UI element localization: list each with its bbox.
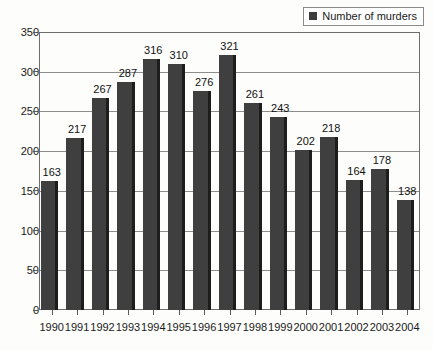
bar-slot: 202 [293,32,318,310]
bar-value-label: 138 [395,186,420,197]
bar-value-label: 178 [369,155,394,166]
bar-value-label: 163 [39,167,64,178]
x-axis-tick-label: 1992 [90,322,114,333]
bar-slot: 321 [217,32,242,310]
x-axis-tick-mark [407,310,408,315]
x-axis-tick-label: 1997 [217,322,241,333]
bar-value-label: 287 [115,68,140,79]
y-axis-tick-mark [33,270,38,271]
bar[interactable] [320,137,337,310]
bar[interactable] [371,169,388,310]
x-axis-tick-mark [128,310,129,315]
x-axis-tick-mark [230,310,231,315]
x-axis-tick-mark [357,310,358,315]
bar[interactable] [270,117,287,310]
x-axis-tick-mark [77,310,78,315]
legend-entry-label: Number of murders [322,10,417,22]
x-axis-tick-label: 2002 [344,322,368,333]
bar-slot: 261 [242,32,267,310]
bar-value-label: 164 [344,166,369,177]
legend-swatch-icon [309,12,317,20]
bar[interactable] [193,91,210,310]
bar[interactable] [66,138,83,310]
x-axis-tick-mark [204,310,205,315]
bar[interactable] [295,150,312,310]
bar[interactable] [143,59,160,310]
x-axis-tick-mark [306,310,307,315]
x-axis-tick-label: 2000 [293,322,317,333]
bar[interactable] [346,180,363,310]
x-axis-tick-mark [255,310,256,315]
x-axis-tick-label: 1998 [243,322,267,333]
bar[interactable] [41,181,58,310]
y-axis-tick-mark [33,32,38,33]
bar-slot: 218 [318,32,343,310]
x-axis-tick-label: 1994 [141,322,165,333]
x-axis-tick-mark [103,310,104,315]
y-axis-tick-mark [33,190,38,191]
y-axis-tick-mark [33,151,38,152]
bar-slot: 164 [344,32,369,310]
x-axis-tick-mark [52,310,53,315]
bar-slot: 138 [395,32,420,310]
y-axis-tick-mark [33,230,38,231]
bar-value-label: 261 [242,89,267,100]
bar[interactable] [397,200,414,310]
bar-value-label: 267 [90,84,115,95]
x-axis-tick-label: 1995 [166,322,190,333]
y-axis-tick-mark [33,71,38,72]
x-axis-tick-mark [331,310,332,315]
bar-slot: 276 [191,32,216,310]
x-axis-tick-label: 2001 [319,322,343,333]
x-axis-tick-label: 1990 [39,322,63,333]
x-axis-tick-label: 2004 [395,322,419,333]
x-axis-tick-label: 1993 [116,322,140,333]
bar-slot: 217 [64,32,89,310]
x-axis-tick-mark [179,310,180,315]
bar-value-label: 316 [141,45,166,56]
y-axis: 050100150200250300350 [0,32,39,310]
x-axis-tick-label: 2003 [370,322,394,333]
bar-value-label: 321 [217,41,242,52]
bar-value-label: 276 [191,77,216,88]
y-axis-tick-mark [33,310,38,311]
bar-value-label: 202 [293,136,318,147]
bar-value-label: 217 [64,124,89,135]
bar[interactable] [117,82,134,310]
bar[interactable] [219,55,236,310]
bar-slot: 316 [141,32,166,310]
bar-slot: 163 [39,32,64,310]
bar-slot: 287 [115,32,140,310]
x-axis-tick-label: 1991 [65,322,89,333]
bar[interactable] [92,98,109,310]
y-axis-tick-mark [33,111,38,112]
bar-slot: 310 [166,32,191,310]
bar-value-label: 218 [318,123,343,134]
bar[interactable] [168,64,185,310]
bar-slot: 243 [268,32,293,310]
bar-slot: 178 [369,32,394,310]
x-axis-tick-mark [280,310,281,315]
x-axis-tick-label: 1999 [268,322,292,333]
x-axis: 1990199119921993199419951996199719981999… [39,310,420,344]
chart-legend: Number of murders [303,7,424,26]
x-axis-tick-mark [382,310,383,315]
bar[interactable] [244,103,261,310]
x-axis-tick-label: 1996 [192,322,216,333]
bar-series-number-of-murders: 1632172672873163102763212612432022181641… [39,32,420,310]
bar-slot: 267 [90,32,115,310]
x-axis-tick-mark [153,310,154,315]
bar-value-label: 243 [268,103,293,114]
bar-value-label: 310 [166,50,191,61]
murders-bar-chart: Number of murders 050100150200250300350 … [0,0,433,350]
